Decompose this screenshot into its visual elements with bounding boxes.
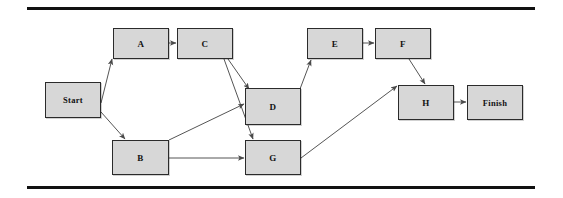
node-start[interactable]: Start	[45, 82, 101, 118]
figure-container: StartACEFDHFinishBG	[0, 0, 563, 198]
edge-start-to-b	[101, 112, 125, 139]
edge-d-to-e	[300, 60, 311, 89]
node-label: D	[270, 102, 277, 112]
node-label: E	[332, 39, 338, 49]
node-c[interactable]: C	[177, 28, 233, 59]
node-h[interactable]: H	[398, 85, 454, 120]
node-label: H	[422, 98, 429, 108]
node-label: A	[138, 39, 145, 49]
node-label: B	[137, 153, 143, 163]
node-label: F	[400, 39, 406, 49]
edge-b-to-d	[169, 104, 244, 140]
node-e[interactable]: E	[307, 28, 363, 59]
node-a[interactable]: A	[113, 28, 169, 59]
node-finish[interactable]: Finish	[467, 85, 523, 120]
node-f[interactable]: F	[375, 28, 431, 59]
node-label: Start	[63, 95, 83, 105]
edge-start-to-a	[101, 59, 112, 103]
edge-c-to-d	[228, 59, 249, 89]
node-b[interactable]: B	[112, 140, 169, 175]
node-label: Finish	[483, 98, 507, 108]
node-label: C	[202, 39, 209, 49]
edge-f-to-h	[409, 59, 425, 84]
node-label: G	[269, 153, 276, 163]
edge-g-to-h	[301, 86, 397, 158]
node-g[interactable]: G	[245, 140, 301, 175]
node-d[interactable]: D	[245, 88, 301, 125]
